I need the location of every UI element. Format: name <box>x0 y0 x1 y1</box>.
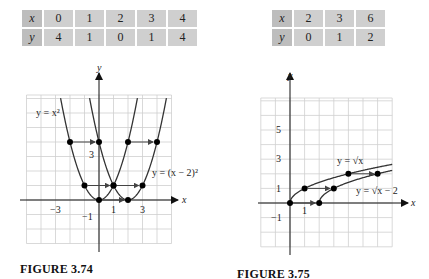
tick-label: 3 <box>276 153 281 164</box>
axes-right <box>258 73 408 255</box>
figure-caption-3-74: FIGURE 3.74 <box>20 262 93 277</box>
data-point <box>96 197 102 203</box>
data-point <box>287 200 293 206</box>
graph-figure-3-74 <box>20 73 178 252</box>
data-point <box>82 183 88 189</box>
tick-label: 1 <box>302 205 307 216</box>
graphs: y x y = x² y = (x − 2)² −3 1 3 3 −1 y x … <box>0 0 429 279</box>
data-point <box>125 139 131 145</box>
curve-label-x-squared: y = x² <box>36 107 60 118</box>
data-point <box>96 139 102 145</box>
grid-right <box>261 98 392 247</box>
tick-label: 3 <box>140 204 145 215</box>
tick-label: −1 <box>271 212 282 223</box>
graph-figure-3-75 <box>258 73 408 255</box>
data-point <box>375 171 381 177</box>
x-axis-label: x <box>181 194 187 205</box>
curve-label-sqrt-x-minus-2: y = √x − 2 <box>356 185 398 196</box>
curve-label-x-minus-2-squared: y = (x − 2)² <box>152 167 198 179</box>
data-point <box>302 185 308 191</box>
y-axis-label: y <box>287 70 293 81</box>
figure-caption-3-75: FIGURE 3.75 <box>237 267 310 279</box>
axes-left <box>20 73 178 252</box>
y-axis-label: y <box>96 62 102 73</box>
data-point <box>316 200 322 206</box>
data-point <box>111 183 117 189</box>
data-point <box>345 171 351 177</box>
data-point <box>67 139 73 145</box>
data-point <box>154 139 160 145</box>
tick-label: 3 <box>89 149 94 160</box>
curve-label-sqrt-x: y = √x <box>337 155 363 166</box>
tick-label: 5 <box>276 124 281 135</box>
tick-label: −3 <box>50 204 61 215</box>
curve-y-sqrt-x- <box>290 164 392 203</box>
tick-label: 1 <box>111 204 116 215</box>
tick-label: 1 <box>276 183 281 194</box>
data-point <box>331 185 337 191</box>
tick-label: −1 <box>82 211 93 222</box>
data-point <box>125 197 131 203</box>
data-point <box>140 183 146 189</box>
x-axis-label: x <box>410 197 416 208</box>
